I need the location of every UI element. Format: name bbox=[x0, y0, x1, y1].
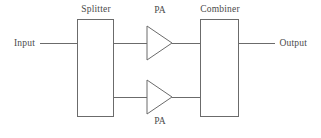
combiner-block bbox=[201, 20, 239, 117]
pa-top-label: PA bbox=[154, 6, 166, 16]
splitter-block bbox=[78, 20, 114, 117]
combiner-label: Combiner bbox=[200, 5, 240, 15]
pa-bottom-label: PA bbox=[154, 117, 166, 127]
pa-top-triangle bbox=[147, 26, 172, 60]
splitter-label: Splitter bbox=[81, 5, 111, 15]
block-diagram: Input Splitter PA Combiner PA Output bbox=[0, 0, 321, 138]
input-label: Input bbox=[14, 39, 35, 49]
amplifier-triangles bbox=[147, 26, 172, 114]
pa-bottom-triangle bbox=[147, 80, 172, 114]
output-label: Output bbox=[279, 39, 307, 49]
